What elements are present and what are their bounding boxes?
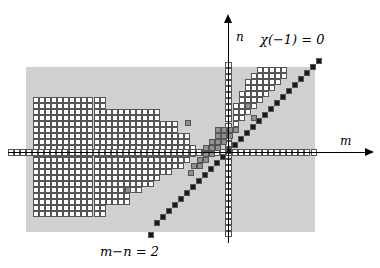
diagonal-cell bbox=[148, 232, 154, 238]
diagonal-cell bbox=[238, 136, 244, 142]
gray-cell bbox=[233, 127, 239, 133]
diagonal-cell bbox=[154, 220, 160, 226]
axis-m-label: m bbox=[340, 134, 351, 148]
grid-cell-open bbox=[184, 157, 190, 163]
diagonal-cell bbox=[316, 58, 322, 64]
diagonal-cell bbox=[160, 214, 166, 220]
gray-cell bbox=[203, 157, 209, 163]
gray-cell bbox=[185, 120, 191, 126]
gray-cell bbox=[215, 145, 221, 151]
diagonal-cell bbox=[214, 160, 220, 166]
diagonal-cell bbox=[220, 154, 226, 160]
axis-n-arrowhead bbox=[224, 14, 232, 23]
diagonal-cell bbox=[184, 190, 190, 196]
grid-cell-open bbox=[100, 211, 106, 217]
chi-annotation-label: χ(−1) = 0 bbox=[260, 32, 325, 47]
axis-m-arrowhead bbox=[365, 148, 374, 156]
diagonal-cell bbox=[232, 142, 238, 148]
axis-n-label: n bbox=[236, 30, 244, 44]
grid-cell-open bbox=[136, 187, 142, 193]
gray-cell bbox=[188, 170, 194, 176]
diagonal-cell bbox=[304, 70, 310, 76]
diagonal-cell bbox=[244, 130, 250, 136]
grid-cell-open bbox=[124, 199, 130, 205]
diagonal-annotation-label: m−n = 2 bbox=[100, 244, 159, 259]
diagonal-cell bbox=[274, 100, 280, 106]
axis-n-line bbox=[228, 22, 230, 243]
grid-cell-open bbox=[178, 163, 184, 169]
diagonal-cell bbox=[250, 124, 256, 130]
grid-cell-open bbox=[281, 73, 287, 79]
gray-cell bbox=[221, 139, 227, 145]
grid-cell-open bbox=[239, 115, 245, 121]
diagonal-cell bbox=[268, 106, 274, 112]
diagonal-cell bbox=[208, 166, 214, 172]
grid-cell-open bbox=[148, 181, 154, 187]
grid-cell-open bbox=[269, 85, 275, 91]
diagonal-cell bbox=[166, 208, 172, 214]
gray-cell bbox=[125, 187, 131, 193]
diagonal-cell bbox=[292, 82, 298, 88]
diagonal-cell bbox=[256, 118, 262, 124]
grid-cell-open bbox=[154, 175, 160, 181]
grid-cell-open bbox=[257, 97, 263, 103]
diagonal-cell bbox=[280, 94, 286, 100]
axis-m-line bbox=[8, 152, 365, 154]
diagonal-cell bbox=[190, 184, 196, 190]
diagonal-cell bbox=[202, 172, 208, 178]
grid-cell-open bbox=[263, 91, 269, 97]
diagonal-cell bbox=[298, 76, 304, 82]
grid-cell-open bbox=[251, 103, 257, 109]
diagonal-cell bbox=[178, 196, 184, 202]
figure-canvas: n m χ(−1) = 0 m−n = 2 bbox=[0, 0, 380, 268]
diagonal-cell bbox=[172, 202, 178, 208]
diagonal-cell bbox=[286, 88, 292, 94]
diagonal-cell bbox=[310, 64, 316, 70]
diagonal-cell bbox=[262, 112, 268, 118]
gray-cell bbox=[197, 163, 203, 169]
diagonal-cell bbox=[196, 178, 202, 184]
grid-cell-open bbox=[275, 79, 281, 85]
gray-cell bbox=[245, 103, 251, 109]
grid-cell-open bbox=[166, 169, 172, 175]
